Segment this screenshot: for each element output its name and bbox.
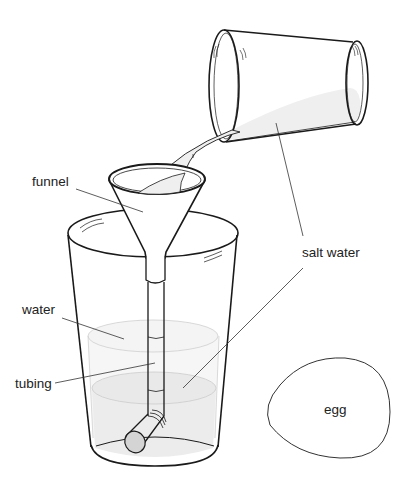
salt-water-label: salt water [302,246,360,260]
funnel-label: funnel [32,175,69,189]
water-label: water [22,303,55,317]
pouring-glass [209,30,368,142]
egg-label: egg [324,403,347,417]
tubing-label: tubing [15,377,52,391]
salt-water-glass-leader [276,123,303,236]
